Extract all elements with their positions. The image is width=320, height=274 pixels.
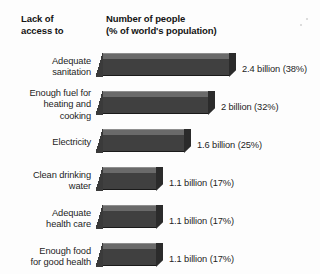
bar-row: Adequate sanitation2.4 billion (38%) bbox=[0, 50, 320, 88]
bar bbox=[96, 205, 163, 233]
bar-left-bevel bbox=[96, 53, 103, 77]
bar-front-face bbox=[96, 59, 229, 76]
value-label: 1.1 billion (17%) bbox=[169, 254, 234, 265]
category-label: Enough fuel for heating and cooking bbox=[0, 88, 91, 122]
bar-row: Adequate health care1.1 billion (17%) bbox=[0, 202, 320, 240]
bar-end-cap bbox=[156, 205, 163, 229]
category-label: Adequate health care bbox=[0, 208, 91, 230]
scan-speckle bbox=[300, 24, 302, 26]
bar-front-face bbox=[96, 135, 184, 152]
bar bbox=[96, 243, 163, 271]
bar-left-bevel bbox=[96, 243, 103, 267]
bar-front-face bbox=[96, 211, 156, 228]
category-label: Adequate sanitation bbox=[0, 56, 91, 78]
value-label: 2.4 billion (38%) bbox=[242, 64, 307, 75]
value-label: 1.6 billion (25%) bbox=[197, 140, 262, 151]
category-label: Clean drinking water bbox=[0, 170, 91, 192]
bar-left-bevel bbox=[96, 205, 103, 229]
bar-end-cap bbox=[156, 243, 163, 267]
bar-chart: Lack of access to Number of people (% of… bbox=[0, 0, 320, 274]
bar-front-face bbox=[96, 173, 156, 190]
bar-end-cap bbox=[229, 53, 236, 77]
bar-front-face bbox=[96, 249, 156, 266]
bar-row: Enough fuel for heating and cooking2 bil… bbox=[0, 88, 320, 126]
bar-row: Electricity1.6 billion (25%) bbox=[0, 126, 320, 164]
bar-front-face bbox=[96, 97, 208, 114]
bar bbox=[96, 91, 215, 119]
value-label: 2 billion (32%) bbox=[221, 102, 278, 113]
value-label: 1.1 billion (17%) bbox=[169, 178, 234, 189]
value-label: 1.1 billion (17%) bbox=[169, 216, 234, 227]
bar bbox=[96, 53, 236, 81]
column-header-values: Number of people (% of world's populatio… bbox=[106, 13, 217, 36]
bar-end-cap bbox=[156, 167, 163, 191]
bar-end-cap bbox=[208, 91, 215, 115]
bar-row: Enough food for good health1.1 billion (… bbox=[0, 240, 320, 274]
column-header-categories: Lack of access to bbox=[21, 13, 63, 36]
category-label: Enough food for good health bbox=[0, 246, 91, 268]
bar-row: Clean drinking water1.1 billion (17%) bbox=[0, 164, 320, 202]
scan-speckle bbox=[306, 18, 308, 20]
bar bbox=[96, 167, 163, 195]
bar bbox=[96, 129, 191, 157]
category-label: Electricity bbox=[0, 137, 91, 148]
bar-left-bevel bbox=[96, 129, 103, 153]
bar-left-bevel bbox=[96, 167, 103, 191]
bar-end-cap bbox=[184, 129, 191, 153]
bar-left-bevel bbox=[96, 91, 103, 115]
